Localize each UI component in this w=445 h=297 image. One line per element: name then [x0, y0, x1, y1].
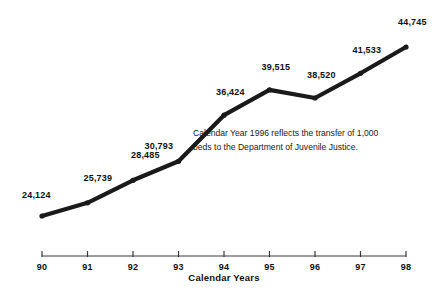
- x-axis-tick-label: 96: [310, 262, 320, 272]
- chart-annotation: Calendar Year 1996 reflects the transfer…: [193, 127, 393, 154]
- data-point-marker: [130, 178, 135, 183]
- data-point-marker: [39, 213, 44, 218]
- data-point-marker: [176, 159, 181, 164]
- data-point-value-label: 30,793: [145, 141, 174, 151]
- line-chart: 24,12425,73928,48530,79336,42439,51538,5…: [0, 0, 445, 297]
- data-point-marker: [221, 113, 226, 118]
- x-axis-tick-label: 91: [82, 262, 92, 272]
- data-point-value-label: 24,124: [22, 190, 51, 200]
- data-point-value-label: 41,533: [353, 45, 382, 55]
- data-point-marker: [85, 200, 90, 205]
- x-axis-tick-label: 97: [355, 262, 365, 272]
- data-point-marker: [312, 95, 317, 100]
- x-axis-tick-label: 93: [173, 262, 183, 272]
- data-point-value-label: 39,515: [262, 62, 291, 72]
- x-axis-tick-label: 92: [128, 262, 138, 272]
- data-point-value-label: 28,485: [131, 150, 160, 160]
- data-point-marker: [403, 44, 408, 49]
- x-axis-tick-label: 94: [219, 262, 229, 272]
- data-point-value-label: 38,520: [307, 70, 336, 80]
- data-point-value-label: 36,424: [216, 87, 245, 97]
- x-axis-tick-label: 90: [37, 262, 47, 272]
- data-point-value-label: 44,745: [398, 17, 427, 27]
- data-point-marker: [358, 71, 363, 76]
- data-point-marker: [267, 87, 272, 92]
- x-axis-tick-label: 98: [401, 262, 411, 272]
- data-point-value-label: 25,739: [84, 173, 113, 183]
- x-axis-title: Calendar Years: [188, 272, 259, 283]
- x-axis-tick-label: 95: [264, 262, 274, 272]
